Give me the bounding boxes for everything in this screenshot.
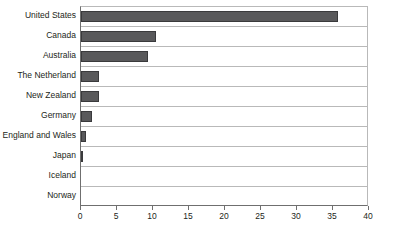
x-axis-tick-label: 5 (101, 211, 131, 221)
x-axis-tick-label: 25 (245, 211, 275, 221)
y-axis-label-england-and-wales: England and Wales (2, 130, 76, 140)
x-axis-tick (80, 206, 81, 210)
row-separator (81, 106, 367, 107)
bar-canada (81, 31, 156, 42)
y-axis-label-the-netherland: The Netherland (2, 70, 76, 80)
row-separator (81, 166, 367, 167)
row-separator (81, 126, 367, 127)
x-axis-tick-label: 20 (209, 211, 239, 221)
x-axis-tick (368, 206, 369, 210)
row-separator (81, 86, 367, 87)
row-separator (81, 26, 367, 27)
x-axis-tick (260, 206, 261, 210)
y-axis-label-norway: Norway (2, 190, 76, 200)
x-axis-tick-label: 10 (137, 211, 167, 221)
y-axis-label-new-zealand: New Zealand (2, 90, 76, 100)
x-axis-tick (332, 206, 333, 210)
y-axis-label-japan: Japan (2, 150, 76, 160)
x-axis-tick-label: 15 (173, 211, 203, 221)
plot-area (80, 6, 368, 206)
row-separator (81, 46, 367, 47)
x-axis-tick-label: 40 (353, 211, 383, 221)
bar-new-zealand (81, 91, 99, 102)
y-axis-label-united-states: United States (2, 10, 76, 20)
x-axis-tick (188, 206, 189, 210)
x-axis-tick (296, 206, 297, 210)
y-axis-label-germany: Germany (2, 110, 76, 120)
x-axis-tick (224, 206, 225, 210)
row-separator (81, 66, 367, 67)
bar-united-states (81, 11, 338, 22)
bar-the-netherland (81, 71, 99, 82)
x-axis-tick-label: 0 (65, 211, 95, 221)
x-axis-tick-label: 35 (317, 211, 347, 221)
x-axis-tick-label: 30 (281, 211, 311, 221)
x-axis-tick (116, 206, 117, 210)
y-axis-label-canada: Canada (2, 30, 76, 40)
row-separator (81, 146, 367, 147)
horizontal-bar-chart: United States Canada Australia The Nethe… (0, 0, 400, 242)
y-axis-label-australia: Australia (2, 50, 76, 60)
x-axis-tick (152, 206, 153, 210)
bar-australia (81, 51, 148, 62)
bar-japan (81, 151, 83, 162)
y-axis-category-labels: United States Canada Australia The Nethe… (0, 6, 76, 206)
bar-england-and-wales (81, 131, 86, 142)
x-axis: 0 5 10 15 20 25 30 35 40 (0, 206, 400, 242)
row-separator (81, 186, 367, 187)
y-axis-label-iceland: Iceland (2, 170, 76, 180)
bar-germany (81, 111, 92, 122)
